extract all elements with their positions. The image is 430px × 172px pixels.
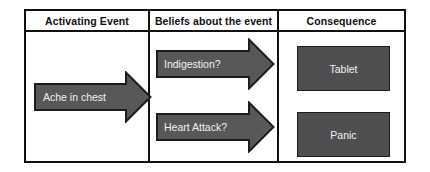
right-arrow-icon [156,38,275,90]
right-arrow-icon [34,71,152,123]
arrow-indigestion: Indigestion? [156,38,275,90]
abc-model-table: Activating Event Beliefs about the event… [24,9,406,163]
column-header-beliefs: Beliefs about the event [150,11,277,30]
column-header-consequence: Consequence [279,11,404,30]
table-header-row: Activating Event Beliefs about the event… [26,11,404,32]
cell-beliefs: Indigestion? Heart Attack? [150,32,277,161]
column-header-activating-event: Activating Event [26,11,148,30]
consequence-box-panic: Panic [297,112,390,157]
cell-activating-event: Ache in chest [26,32,148,161]
arrow-heart-attack: Heart Attack? [156,101,275,153]
arrow-ache-in-chest: Ache in chest [34,71,152,123]
diagram-canvas: Activating Event Beliefs about the event… [0,0,430,172]
right-arrow-icon [156,101,275,153]
consequence-box-tablet: Tablet [297,46,390,91]
cell-consequence: Tablet Panic [279,32,404,161]
